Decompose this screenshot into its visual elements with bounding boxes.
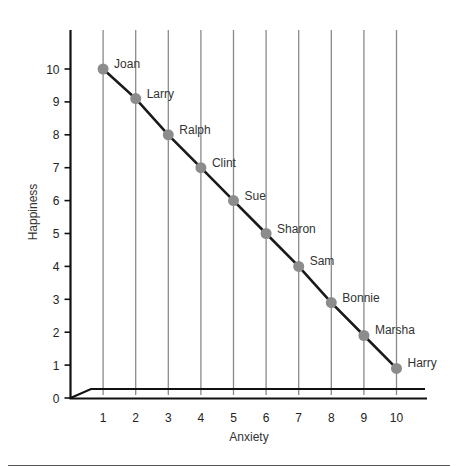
data-point-bonnie — [326, 297, 337, 308]
y-tick-label: 9 — [53, 95, 60, 109]
point-label-sue: Sue — [245, 189, 267, 203]
y-tick-label: 2 — [53, 326, 60, 340]
x-tick-label: 10 — [390, 411, 404, 425]
x-tick-label: 3 — [165, 411, 172, 425]
point-label-ralph: Ralph — [179, 123, 210, 137]
y-tick-label: 3 — [53, 293, 60, 307]
x-tick-label: 1 — [100, 411, 107, 425]
x-tick-label: 7 — [295, 411, 302, 425]
y-tick-label: 10 — [46, 63, 60, 77]
y-axis-ticks: 012345678910 — [46, 63, 70, 406]
data-point-ralph — [163, 129, 174, 140]
x-tick-label: 2 — [132, 411, 139, 425]
data-point-clint — [195, 162, 206, 173]
point-labels: JoanLarryRalphClintSueSharonSamBonnieMar… — [114, 57, 437, 370]
data-point-sue — [228, 195, 239, 206]
y-tick-label: 4 — [53, 260, 60, 274]
data-point-sharon — [261, 228, 272, 239]
data-point-larry — [130, 93, 141, 104]
x-tick-label: 6 — [263, 411, 270, 425]
scatter-line-chart: 012345678910 12345678910 JoanLarryRalphC… — [0, 0, 458, 466]
x-tick-label: 4 — [198, 411, 205, 425]
x-tick-label: 5 — [230, 411, 237, 425]
data-series — [98, 64, 402, 374]
data-point-marsha — [358, 330, 369, 341]
point-label-marsha: Marsha — [375, 323, 415, 337]
x-tick-label: 8 — [328, 411, 335, 425]
point-label-sam: Sam — [310, 254, 335, 268]
y-tick-label: 8 — [53, 128, 60, 142]
point-label-joan: Joan — [114, 57, 140, 71]
data-point-joan — [98, 64, 109, 75]
data-point-sam — [293, 261, 304, 272]
point-label-harry: Harry — [408, 356, 437, 370]
y-tick-label: 7 — [53, 161, 60, 175]
point-label-bonnie: Bonnie — [342, 291, 380, 305]
point-label-sharon: Sharon — [277, 222, 316, 236]
y-tick-label: 1 — [53, 359, 60, 373]
y-axis-title: Happiness — [26, 184, 40, 241]
data-point-harry — [391, 363, 402, 374]
y-tick-label: 0 — [53, 392, 60, 406]
x-tick-label: 9 — [361, 411, 368, 425]
y-tick-label: 6 — [53, 194, 60, 208]
x-axis-ticks: 12345678910 — [100, 411, 404, 425]
x-axis-title: Anxiety — [229, 430, 268, 444]
point-label-larry: Larry — [147, 87, 174, 101]
vertical-gridlines — [103, 30, 396, 395]
trend-line — [103, 69, 396, 368]
point-label-clint: Clint — [212, 156, 237, 170]
x-axis-back-line — [71, 389, 426, 398]
y-tick-label: 5 — [53, 227, 60, 241]
